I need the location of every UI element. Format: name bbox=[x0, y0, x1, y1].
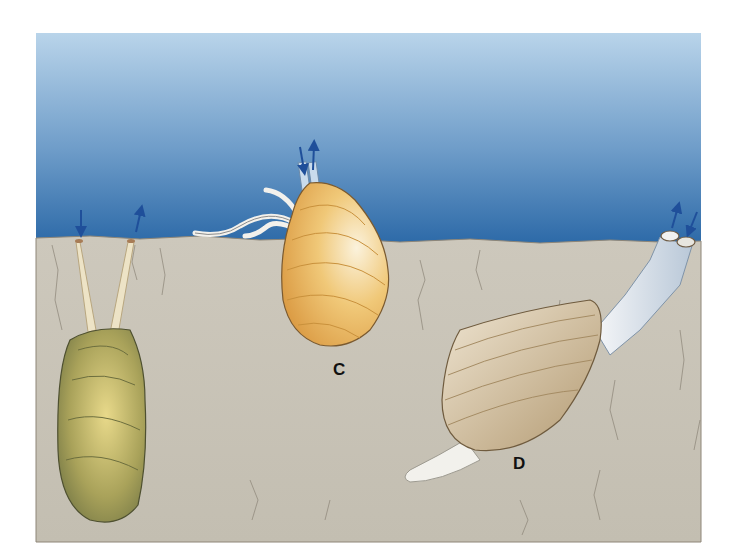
water-region bbox=[36, 33, 701, 243]
label-c: C bbox=[333, 361, 345, 378]
flow-arrow-out-c bbox=[313, 145, 314, 170]
label-d: D bbox=[513, 455, 525, 472]
burrowing-bivalves-diagram bbox=[0, 0, 739, 556]
shell-a bbox=[58, 329, 146, 522]
